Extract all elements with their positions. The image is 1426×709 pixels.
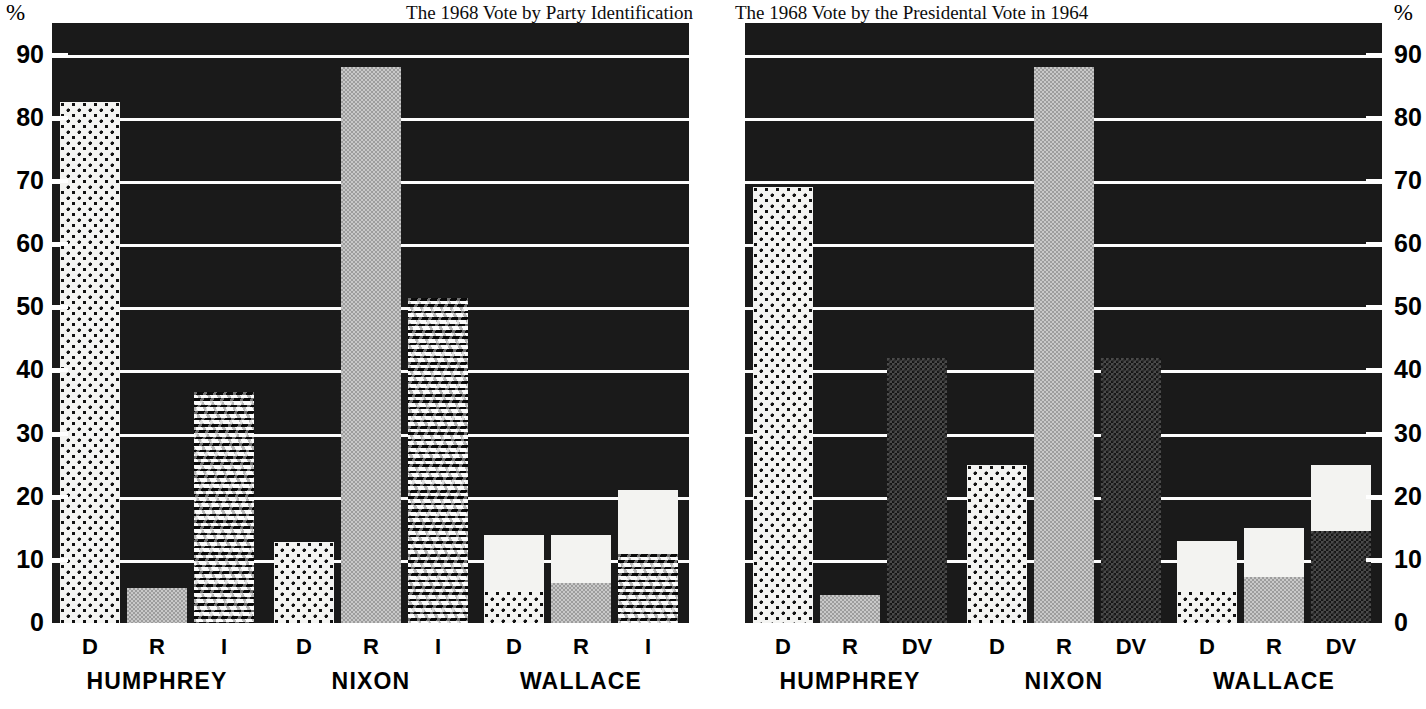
y-tick-label-80: 80 bbox=[0, 105, 44, 130]
panel-right: % The 1968 Vote by the Presidental Vote … bbox=[711, 0, 1421, 709]
y-tick-label-10: 10 bbox=[1394, 547, 1426, 572]
y-tick-label-20: 20 bbox=[0, 484, 44, 509]
y-tick-60 bbox=[52, 242, 68, 246]
y-tick-label-50: 50 bbox=[1394, 294, 1426, 319]
bar-nixon-i bbox=[408, 298, 468, 623]
category-label-nixon-r: R bbox=[1034, 634, 1094, 660]
y-tick-20 bbox=[1366, 495, 1382, 499]
y-tick-60 bbox=[1366, 242, 1382, 246]
y-tick-10 bbox=[52, 558, 68, 562]
category-label-nixon-r: R bbox=[341, 634, 401, 660]
category-label-nixon-i: I bbox=[408, 634, 468, 660]
group-label-wallace: WALLACE bbox=[1157, 668, 1391, 695]
bar-segment-upper bbox=[1034, 67, 1094, 623]
y-tick-label-10: 10 bbox=[0, 547, 44, 572]
y-tick-40 bbox=[52, 368, 68, 372]
y-tick-label-80: 80 bbox=[1394, 105, 1426, 130]
category-label-nixon-d: D bbox=[967, 634, 1027, 660]
bar-segment-lower bbox=[1177, 591, 1237, 623]
category-label-wallace-d: D bbox=[484, 634, 544, 660]
category-label-humphrey-r: R bbox=[820, 634, 880, 660]
category-label-humphrey-dv: DV bbox=[887, 634, 947, 660]
bar-segment-lower bbox=[618, 554, 678, 623]
bar-segment-upper bbox=[887, 358, 947, 623]
bar-segment-upper bbox=[127, 588, 187, 623]
y-tick-label-60: 60 bbox=[1394, 231, 1426, 256]
y-tick-90 bbox=[1366, 53, 1382, 57]
bar-wallace-r bbox=[551, 535, 611, 623]
y-tick-90 bbox=[52, 53, 68, 57]
y-tick-40 bbox=[1366, 368, 1382, 372]
bar-nixon-d bbox=[967, 465, 1027, 623]
category-label-wallace-i: I bbox=[618, 634, 678, 660]
y-tick-70 bbox=[52, 179, 68, 183]
y-tick-label-70: 70 bbox=[0, 168, 44, 193]
y-tick-label-30: 30 bbox=[0, 421, 44, 446]
y-tick-50 bbox=[1366, 305, 1382, 309]
category-label-wallace-d: D bbox=[1177, 634, 1237, 660]
bar-segment-upper bbox=[274, 542, 334, 623]
y-tick-label-40: 40 bbox=[1394, 357, 1426, 382]
gridline-90 bbox=[745, 55, 1382, 58]
group-label-humphrey: HUMPHREY bbox=[40, 668, 274, 695]
bar-segment-lower bbox=[1311, 531, 1371, 623]
y-tick-label-90: 90 bbox=[1394, 42, 1426, 67]
bar-nixon-r bbox=[1034, 67, 1094, 623]
bar-wallace-dv bbox=[1311, 465, 1371, 623]
y-tick-30 bbox=[1366, 432, 1382, 436]
bar-segment-lower bbox=[1244, 577, 1304, 623]
y-tick-label-0: 0 bbox=[1394, 610, 1426, 635]
group-label-humphrey: HUMPHREY bbox=[733, 668, 967, 695]
bar-wallace-i bbox=[618, 490, 678, 623]
y-tick-50 bbox=[52, 305, 68, 309]
category-label-humphrey-d: D bbox=[753, 634, 813, 660]
y-tick-70 bbox=[1366, 179, 1382, 183]
category-label-humphrey-d: D bbox=[60, 634, 120, 660]
bar-nixon-r bbox=[341, 67, 401, 623]
bar-segment-upper bbox=[408, 298, 468, 623]
panel-left-title: The 1968 Vote by Party Identification bbox=[406, 2, 693, 24]
category-label-nixon-d: D bbox=[274, 634, 334, 660]
group-label-nixon: NIXON bbox=[947, 668, 1181, 695]
category-label-wallace-r: R bbox=[551, 634, 611, 660]
group-label-wallace: WALLACE bbox=[464, 668, 698, 695]
percent-symbol-right: % bbox=[1394, 2, 1413, 24]
y-tick-label-70: 70 bbox=[1394, 168, 1426, 193]
bar-segment-upper bbox=[820, 595, 880, 623]
bar-humphrey-d bbox=[753, 187, 813, 623]
category-label-humphrey-i: I bbox=[194, 634, 254, 660]
plot-area-left bbox=[52, 23, 689, 623]
bar-nixon-d bbox=[274, 542, 334, 623]
bar-nixon-dv bbox=[1101, 358, 1161, 623]
bar-wallace-d bbox=[484, 535, 544, 623]
y-tick-label-50: 50 bbox=[0, 294, 44, 319]
bar-humphrey-d bbox=[60, 102, 120, 623]
bar-segment-upper bbox=[60, 102, 120, 623]
gridline-90 bbox=[52, 55, 689, 58]
percent-symbol-left: % bbox=[6, 2, 25, 24]
y-tick-label-0: 0 bbox=[0, 610, 44, 635]
bar-segment-upper bbox=[753, 187, 813, 623]
bar-humphrey-r bbox=[820, 595, 880, 623]
bar-segment-lower bbox=[551, 583, 611, 623]
bar-segment-upper bbox=[341, 67, 401, 623]
bar-wallace-d bbox=[1177, 541, 1237, 623]
y-tick-80 bbox=[1366, 116, 1382, 120]
group-label-nixon: NIXON bbox=[254, 668, 488, 695]
y-tick-label-60: 60 bbox=[0, 231, 44, 256]
bar-humphrey-r bbox=[127, 588, 187, 623]
y-tick-80 bbox=[52, 116, 68, 120]
y-tick-label-90: 90 bbox=[0, 42, 44, 67]
plot-area-right bbox=[745, 23, 1382, 623]
category-label-wallace-r: R bbox=[1244, 634, 1304, 660]
panel-right-title: The 1968 Vote by the Presidental Vote in… bbox=[735, 2, 1088, 24]
bar-segment-lower bbox=[484, 591, 544, 623]
category-label-nixon-dv: DV bbox=[1101, 634, 1161, 660]
y-tick-10 bbox=[1366, 558, 1382, 562]
category-label-wallace-dv: DV bbox=[1311, 634, 1371, 660]
panel-left: % The 1968 Vote by Party Identification … bbox=[0, 0, 711, 709]
y-tick-label-20: 20 bbox=[1394, 484, 1426, 509]
y-tick-label-30: 30 bbox=[1394, 421, 1426, 446]
bar-humphrey-dv bbox=[887, 358, 947, 623]
